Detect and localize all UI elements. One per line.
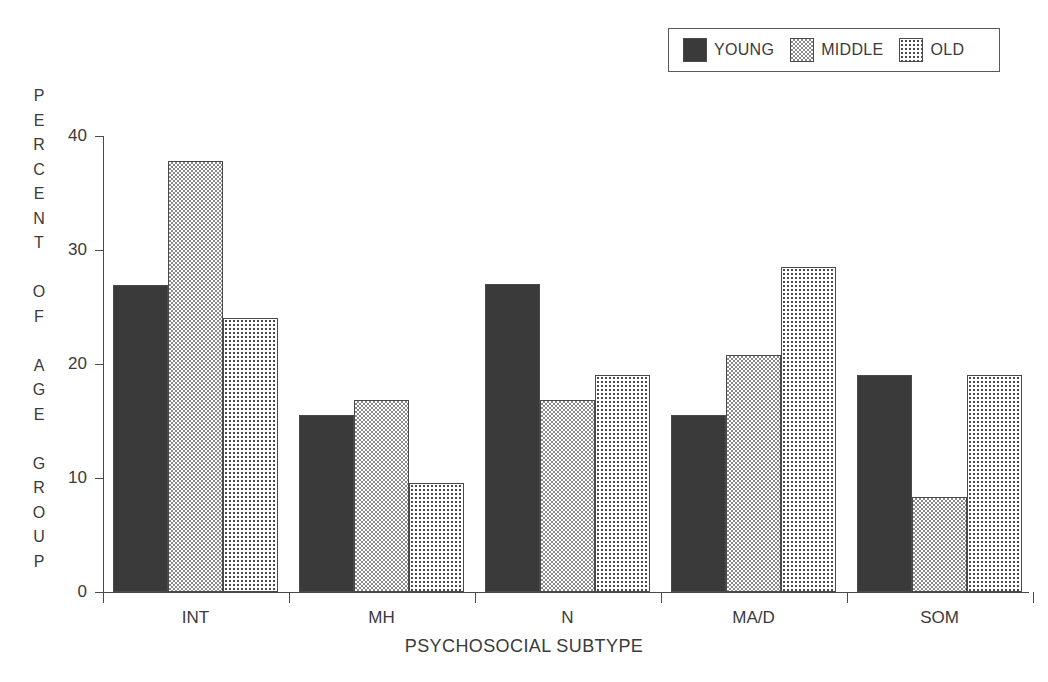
x-axis-category-int: INT — [182, 608, 209, 628]
y-axis-tick-label: 10 — [31, 468, 87, 488]
x-axis-tick — [289, 592, 290, 603]
x-axis-title: PSYCHOSOCIAL SUBTYPE — [0, 636, 1048, 657]
x-axis-tick — [1033, 592, 1034, 603]
x-axis-category-n: N — [561, 608, 573, 628]
x-axis-tick — [661, 592, 662, 603]
bar-som-young — [857, 375, 912, 592]
bar-int-old — [223, 318, 278, 592]
y-axis-tick-label: 20 — [31, 354, 87, 374]
bar-som-middle — [912, 497, 967, 592]
x-axis-tick — [847, 592, 848, 603]
bar-som-old — [967, 375, 1022, 592]
x-axis-category-som: SOM — [920, 608, 959, 628]
y-axis-tick-label: 0 — [31, 582, 87, 602]
bar-n-young — [485, 284, 540, 592]
bar-ma-d-middle — [726, 355, 781, 592]
y-axis-tick — [95, 250, 104, 251]
x-axis-line — [103, 592, 1029, 593]
bar-mh-young — [299, 415, 354, 592]
bar-mh-old — [409, 483, 464, 592]
x-axis-tick — [103, 592, 104, 603]
y-axis-tick — [95, 364, 104, 365]
y-axis-tick-label: 30 — [31, 240, 87, 260]
bar-mh-middle — [354, 400, 409, 592]
x-axis-category-mh: MH — [368, 608, 394, 628]
x-axis-tick — [475, 592, 476, 603]
bar-n-old — [595, 375, 650, 592]
y-axis-tick — [95, 136, 104, 137]
bar-int-young — [113, 285, 168, 592]
bar-chart-plot: 010203040 INTMHNMA/DSOM — [0, 0, 1048, 682]
bar-int-middle — [168, 161, 223, 592]
bar-ma-d-old — [781, 267, 836, 592]
bar-ma-d-young — [671, 415, 726, 592]
y-axis-tick — [95, 478, 104, 479]
x-axis-category-ma-d: MA/D — [732, 608, 775, 628]
bar-n-middle — [540, 400, 595, 592]
y-axis-tick-label: 40 — [31, 126, 87, 146]
